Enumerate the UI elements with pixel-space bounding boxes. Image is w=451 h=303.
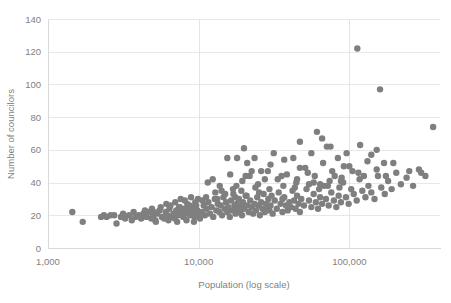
data-point bbox=[227, 171, 233, 177]
data-point bbox=[158, 204, 164, 210]
y-tick-label: 20 bbox=[30, 210, 41, 221]
data-point bbox=[199, 197, 205, 203]
data-point bbox=[316, 186, 322, 192]
data-point bbox=[430, 124, 436, 130]
x-tick-label: 1,000 bbox=[36, 256, 60, 267]
data-point bbox=[269, 210, 275, 216]
data-point bbox=[292, 184, 298, 190]
data-point bbox=[251, 155, 257, 161]
data-point bbox=[265, 168, 271, 174]
data-point bbox=[214, 196, 220, 202]
data-point bbox=[378, 184, 384, 190]
data-point bbox=[354, 45, 360, 51]
data-point bbox=[177, 196, 183, 202]
x-axis-title: Population (log scale) bbox=[198, 279, 289, 290]
data-point bbox=[343, 194, 349, 200]
data-point bbox=[234, 155, 240, 161]
data-point bbox=[406, 168, 412, 174]
data-point bbox=[381, 160, 387, 166]
y-tick-label: 80 bbox=[30, 112, 41, 123]
data-point bbox=[212, 189, 218, 195]
data-point bbox=[357, 142, 363, 148]
data-point bbox=[328, 189, 334, 195]
data-point bbox=[410, 183, 416, 189]
data-point bbox=[368, 189, 374, 195]
data-point bbox=[327, 143, 333, 149]
data-point bbox=[315, 206, 321, 212]
data-point bbox=[371, 196, 377, 202]
data-point bbox=[359, 188, 365, 194]
data-point bbox=[310, 191, 316, 197]
data-point bbox=[271, 150, 277, 156]
data-point bbox=[362, 194, 368, 200]
data-point bbox=[373, 166, 379, 172]
data-point bbox=[306, 197, 312, 203]
data-point bbox=[332, 173, 338, 179]
data-point bbox=[256, 189, 262, 195]
data-point bbox=[336, 184, 342, 190]
data-point bbox=[224, 155, 230, 161]
scatter-chart: 020406080100120140 1,00010,000100,000 Nu… bbox=[0, 0, 451, 303]
data-point bbox=[297, 209, 303, 215]
y-tick-label: 120 bbox=[25, 46, 41, 57]
data-point bbox=[227, 214, 233, 220]
y-tick-label: 60 bbox=[30, 144, 41, 155]
data-point bbox=[244, 160, 250, 166]
data-point bbox=[280, 183, 286, 189]
chart-svg: 020406080100120140 1,00010,000100,000 Nu… bbox=[0, 0, 451, 303]
data-point bbox=[355, 170, 361, 176]
x-tick-label: 100,000 bbox=[332, 256, 366, 267]
data-point bbox=[326, 178, 332, 184]
data-point bbox=[165, 217, 171, 223]
data-point bbox=[301, 202, 307, 208]
data-point bbox=[297, 138, 303, 144]
data-point bbox=[151, 209, 157, 215]
data-point bbox=[222, 191, 228, 197]
data-point bbox=[308, 150, 314, 156]
y-tick-label: 0 bbox=[36, 243, 41, 254]
data-point bbox=[268, 192, 274, 198]
data-point bbox=[230, 186, 236, 192]
data-point bbox=[183, 217, 189, 223]
data-point bbox=[174, 219, 180, 225]
data-points bbox=[69, 45, 436, 226]
data-point bbox=[326, 202, 332, 208]
data-point bbox=[298, 196, 304, 202]
data-point bbox=[388, 186, 394, 192]
y-tick-label: 40 bbox=[30, 177, 41, 188]
data-point bbox=[312, 173, 318, 179]
data-point bbox=[142, 207, 148, 213]
data-point bbox=[101, 212, 107, 218]
data-point bbox=[331, 197, 337, 203]
data-point bbox=[281, 156, 287, 162]
data-point bbox=[398, 181, 404, 187]
data-point bbox=[279, 196, 285, 202]
y-tick-label: 140 bbox=[25, 14, 41, 25]
data-point bbox=[319, 135, 325, 141]
data-point bbox=[349, 168, 355, 174]
data-point bbox=[130, 209, 136, 215]
data-point bbox=[113, 220, 119, 226]
data-point bbox=[335, 155, 341, 161]
data-point bbox=[239, 212, 245, 218]
data-point bbox=[365, 183, 371, 189]
y-axis-tick-labels: 020406080100120140 bbox=[25, 14, 41, 254]
data-point bbox=[317, 194, 323, 200]
data-point bbox=[382, 191, 388, 197]
data-point bbox=[320, 160, 326, 166]
data-point bbox=[305, 170, 311, 176]
data-point bbox=[313, 199, 319, 205]
data-point bbox=[278, 173, 284, 179]
data-point bbox=[377, 86, 383, 92]
data-point bbox=[210, 214, 216, 220]
data-point bbox=[361, 173, 367, 179]
data-point bbox=[308, 204, 314, 210]
data-point bbox=[290, 155, 296, 161]
x-axis-tick-labels: 1,00010,000100,000 bbox=[36, 256, 366, 267]
data-point bbox=[323, 196, 329, 202]
data-point bbox=[249, 168, 255, 174]
data-point bbox=[219, 212, 225, 218]
y-axis-title: Number of councilors bbox=[5, 89, 16, 179]
data-point bbox=[343, 150, 349, 156]
data-point bbox=[306, 181, 312, 187]
